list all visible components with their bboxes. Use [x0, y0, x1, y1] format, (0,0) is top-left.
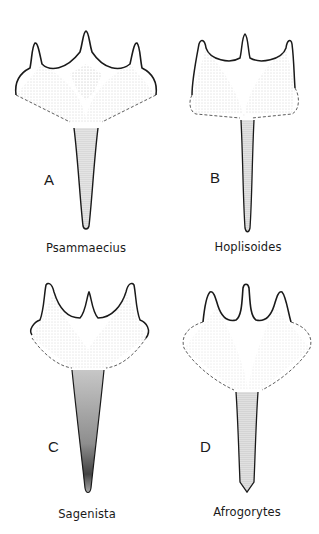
panel-c-drawing [31, 283, 149, 492]
panel-b-drawing [190, 34, 299, 232]
genus-label-d: Afrogorytes [213, 505, 281, 519]
panel-letter-b: B [210, 169, 220, 186]
panel-a-drawing [16, 31, 157, 229]
panel-letter-c: C [48, 438, 59, 455]
panel-letter-d: D [200, 438, 211, 455]
panel-letter-a: A [44, 171, 54, 188]
genus-label-b: Hoplisoides [214, 240, 281, 254]
panel-d-drawing [183, 284, 311, 492]
genus-label-a: Psammaecius [46, 241, 126, 255]
genus-label-c: Sagenista [58, 507, 116, 521]
